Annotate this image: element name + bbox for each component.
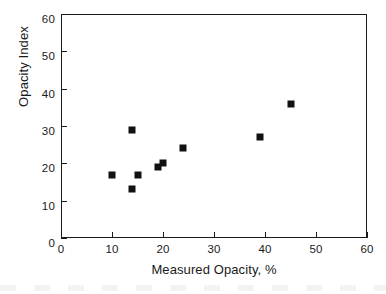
x-tick-label-text: 20 [143, 243, 183, 256]
y-tick-label-text: 40 [26, 89, 55, 101]
y-tick-mark [61, 51, 67, 52]
x-tick-mark [163, 232, 164, 238]
x-tick-label-text: 30 [194, 243, 234, 256]
y-tick-label-text: 30 [26, 126, 55, 138]
page-scan-artifact [0, 285, 386, 291]
y-tick-mark [61, 126, 67, 127]
y-tick-label-text: 50 [26, 51, 55, 63]
y-tick-mark [61, 201, 67, 202]
x-tick-mark [112, 232, 113, 238]
plot-axes-frame [61, 14, 367, 238]
y-tick-label-text: 60 [26, 14, 55, 26]
y-tick-label-text: 20 [26, 163, 55, 175]
scatter-plot-figure: Measured Opacity, % Opacity Index 010203… [0, 0, 386, 294]
y-tick-mark [61, 238, 67, 239]
y-tick-mark [61, 14, 67, 15]
x-tick-label-text: 60 [347, 243, 386, 256]
x-tick-label: 30 [194, 243, 234, 256]
x-tick-mark [316, 232, 317, 238]
y-tick-label-text: 10 [26, 201, 55, 213]
x-tick-label-text: 0 [41, 243, 81, 256]
y-tick-mark [61, 163, 67, 164]
x-tick-mark [61, 232, 62, 238]
y-tick-mark [61, 89, 67, 90]
x-tick-label-text: 40 [245, 243, 285, 256]
x-tick-label: 40 [245, 243, 285, 256]
x-tick-label-text: 50 [296, 243, 336, 256]
x-axis-label: Measured Opacity, % [61, 262, 367, 277]
x-tick-label: 20 [143, 243, 183, 256]
x-tick-label-text: 10 [92, 243, 132, 256]
x-tick-label: 50 [296, 243, 336, 256]
x-tick-label: 10 [92, 243, 132, 256]
x-tick-label: 0 [41, 243, 81, 256]
x-tick-mark [214, 232, 215, 238]
x-tick-mark [265, 232, 266, 238]
x-tick-mark [367, 232, 368, 238]
x-tick-label: 60 [347, 243, 386, 256]
